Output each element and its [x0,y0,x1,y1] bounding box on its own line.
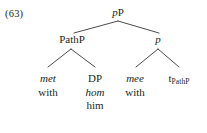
leaf-trace: tPathP [151,72,207,88]
branch-p-to-trace [158,49,179,67]
node-p: p [155,34,161,45]
node-pathp: PathP [59,34,85,45]
tree-branches [0,0,207,133]
branch-root-to-p [118,21,159,33]
branch-pathp-to-dp [71,49,95,67]
node-root-pP: pP [112,7,124,18]
branch-root-to-pathp [74,21,118,33]
trace-subscript: PathP [172,77,190,86]
tree-diagram-figure: (63) pP PathP p met with DP hom him mee … [0,0,207,133]
branch-pathp-to-met [48,49,71,67]
branch-p-to-mee [136,49,158,67]
node-root-roman-part: P [118,6,124,18]
leaf-trace-symbol: tPathP [151,72,207,88]
leaf-dp-gloss: him [67,99,123,113]
